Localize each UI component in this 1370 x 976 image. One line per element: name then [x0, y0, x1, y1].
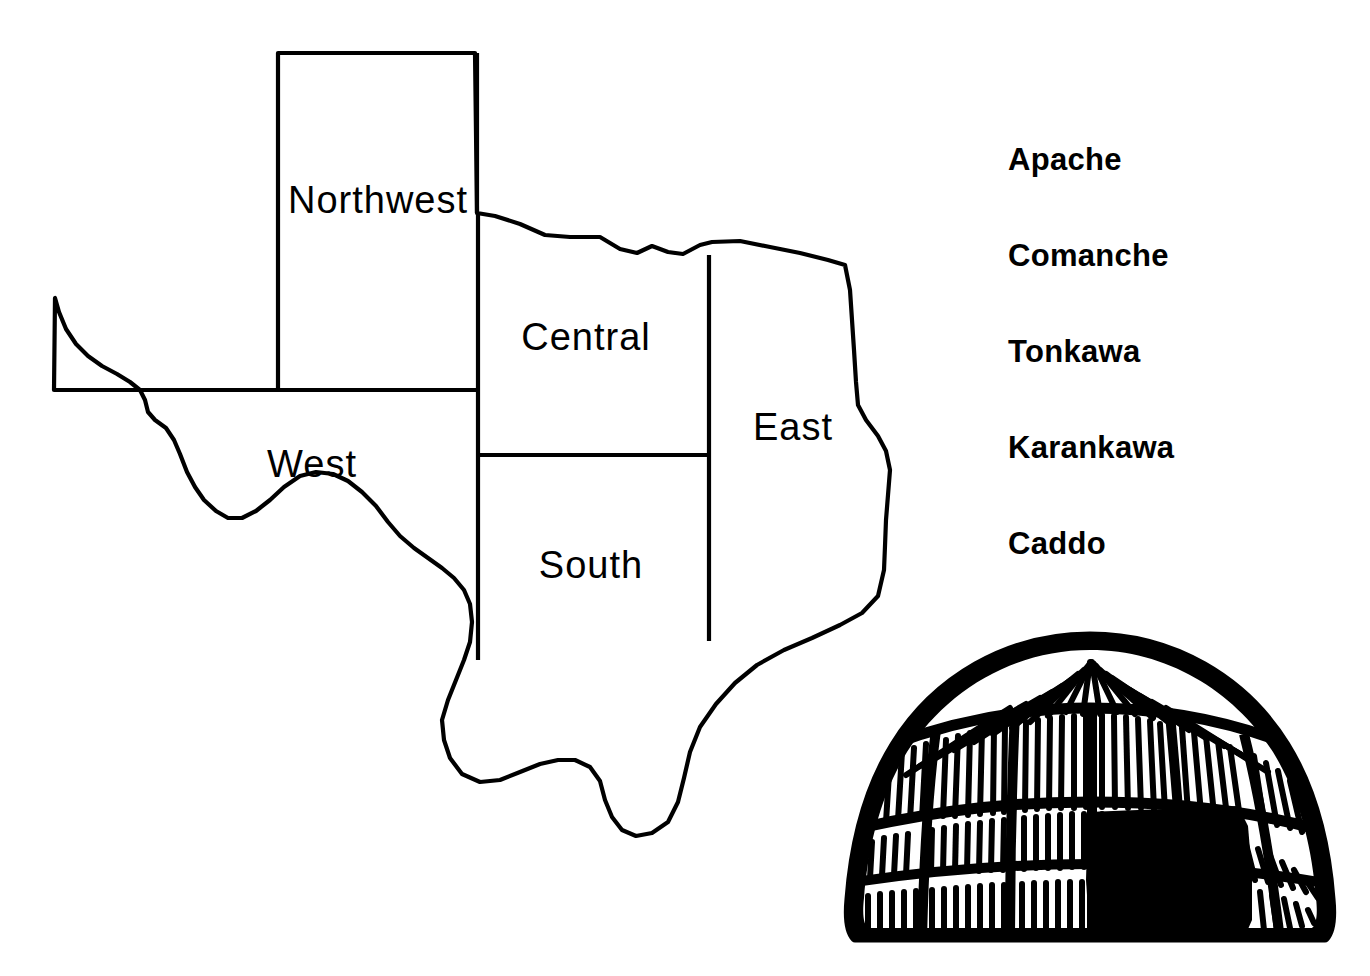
- region-label-central: Central: [521, 316, 651, 358]
- region-label-west: West: [267, 443, 357, 485]
- grass-house-illustration: [840, 630, 1340, 950]
- tribe-list-item: Caddo: [1008, 496, 1308, 592]
- dwelling-svg: [840, 630, 1340, 950]
- texas-region-map: Northwest West Central South East: [0, 0, 940, 900]
- dwelling-doorway: [1086, 806, 1252, 938]
- region-label-northwest: Northwest: [288, 179, 468, 221]
- region-label-east: East: [753, 406, 833, 448]
- tribe-list-item: Karankawa: [1008, 400, 1308, 496]
- dome-rib-2: [1010, 712, 1015, 942]
- tribe-list-item: Tonkawa: [1008, 304, 1308, 400]
- tribe-list-item: Comanche: [1008, 208, 1308, 304]
- tribe-name-list: Apache Comanche Tonkawa Karankawa Caddo: [1008, 112, 1308, 592]
- map-svg: Northwest West Central South East: [0, 0, 940, 900]
- page-root: Northwest West Central South East Apache…: [0, 0, 1370, 976]
- region-label-south: South: [539, 544, 643, 586]
- tribe-list-item: Apache: [1008, 112, 1308, 208]
